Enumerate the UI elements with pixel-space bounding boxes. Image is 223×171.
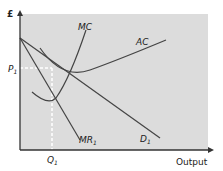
quantity-label: Q1	[47, 155, 58, 166]
x-axis-label: Output	[176, 157, 208, 167]
y-axis-label: £	[7, 9, 13, 19]
mc-label: MC	[78, 22, 93, 32]
y-axis-arrow-icon	[17, 10, 23, 16]
economics-diagram: £ Output P1 Q1 MC AC MR1 D1	[0, 0, 223, 171]
x-axis-arrow-icon	[208, 147, 214, 153]
ac-label: AC	[135, 37, 149, 47]
price-label: P1	[8, 64, 17, 75]
plot-area	[20, 14, 208, 150]
